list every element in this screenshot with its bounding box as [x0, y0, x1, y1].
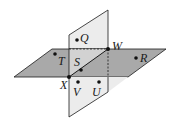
label-x: X [59, 78, 68, 92]
point-x [67, 75, 71, 79]
point-q [75, 38, 79, 42]
label-s: S [74, 55, 80, 69]
point-w [106, 47, 110, 51]
point-u [97, 80, 101, 84]
point-r [134, 56, 138, 60]
point-v [76, 80, 80, 84]
intersecting-planes-diagram: Q W T S R X V U [0, 0, 174, 125]
point-t [53, 52, 57, 56]
label-r: R [139, 51, 148, 65]
label-w: W [112, 39, 123, 53]
label-u: U [92, 85, 102, 99]
label-q: Q [80, 31, 89, 45]
